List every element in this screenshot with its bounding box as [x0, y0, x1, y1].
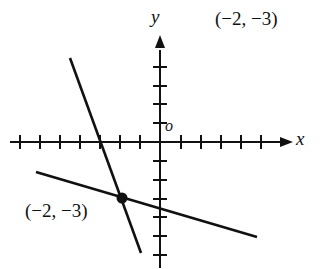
x-axis-arrow-icon [280, 137, 293, 147]
y-axis-arrow-icon [155, 35, 165, 48]
intersection-label: (−2, −3) [25, 200, 88, 222]
title-point-label: (−2, −3) [215, 8, 278, 30]
steep-line [70, 58, 141, 253]
x-axis-label: x [296, 128, 304, 150]
intersection-point [117, 193, 128, 204]
origin-label: o [165, 117, 173, 135]
y-axis-label: y [151, 6, 159, 28]
